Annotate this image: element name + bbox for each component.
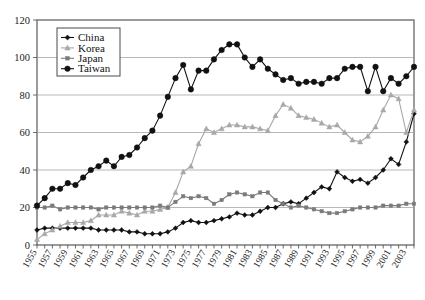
x-tick-label: 1959 [51, 248, 69, 270]
data-point-marker [66, 206, 69, 209]
data-point-marker [396, 81, 402, 87]
data-point-marker [74, 206, 77, 209]
line-chart-figure: 020406080100120 195519571959196119631965… [0, 0, 425, 300]
data-point-marker [211, 57, 217, 63]
data-point-marker [350, 64, 356, 70]
y-tick-label: 120 [14, 15, 30, 26]
data-point-marker [334, 75, 340, 81]
data-point-marker [288, 75, 294, 81]
x-tick-label: 1955 [21, 248, 39, 270]
data-point-marker [257, 57, 263, 63]
data-point-marker [228, 193, 231, 196]
data-point-marker [204, 68, 210, 74]
y-axis-tick-labels-group: 020406080100120 [14, 15, 30, 251]
data-point-marker [58, 208, 61, 211]
data-point-marker [189, 196, 192, 199]
legend-marker-square-icon [66, 57, 70, 61]
data-point-marker [404, 73, 410, 79]
data-point-marker [134, 145, 140, 151]
chart-legend: ChinaKoreaJapanTaiwan [57, 28, 120, 76]
data-point-marker [311, 79, 317, 85]
data-point-marker [166, 206, 169, 209]
data-point-marker [389, 204, 392, 207]
data-point-marker [320, 210, 323, 213]
legend-marker-circle-icon [65, 66, 71, 72]
x-tick-label: 1999 [359, 248, 377, 270]
data-point-marker [65, 180, 71, 186]
data-point-marker [397, 204, 400, 207]
data-point-marker [150, 128, 156, 134]
x-tick-label: 1963 [82, 248, 100, 270]
data-point-marker [266, 191, 269, 194]
x-tick-label: 1997 [344, 248, 362, 270]
data-point-marker [180, 62, 186, 68]
data-point-marker [235, 191, 238, 194]
data-point-marker [165, 94, 171, 100]
data-point-marker [282, 202, 285, 205]
data-point-marker [351, 208, 354, 211]
x-tick-label: 1969 [128, 248, 146, 270]
x-tick-label: 1975 [174, 248, 192, 270]
data-point-marker [97, 208, 100, 211]
x-tick-label: 1961 [67, 248, 85, 270]
data-point-marker [342, 66, 348, 72]
data-point-marker [80, 175, 86, 181]
data-point-marker [305, 206, 308, 209]
data-point-marker [243, 193, 246, 196]
data-point-marker [297, 204, 300, 207]
y-axis-ticks-group [33, 20, 37, 245]
data-point-marker [412, 202, 415, 205]
data-point-marker [280, 77, 286, 83]
data-point-marker [182, 195, 185, 198]
data-point-marker [227, 42, 233, 48]
data-point-marker [151, 206, 154, 209]
data-point-marker [319, 81, 325, 87]
data-point-marker [51, 204, 54, 207]
x-tick-label: 2001 [374, 248, 392, 270]
x-axis-tick-labels-group: 1955195719591961196319651967196919711973… [21, 248, 409, 270]
data-point-marker [103, 158, 109, 164]
data-point-marker [173, 75, 179, 81]
data-point-marker [196, 68, 202, 74]
data-point-marker [142, 135, 148, 141]
legend-label: Taiwan [78, 62, 111, 74]
data-point-marker [220, 198, 223, 201]
data-point-marker [119, 154, 125, 160]
data-point-marker [81, 206, 84, 209]
x-tick-label: 1965 [98, 248, 116, 270]
data-point-marker [242, 55, 248, 61]
y-tick-label: 80 [20, 90, 31, 101]
data-point-marker [34, 203, 40, 209]
x-tick-label: 1979 [205, 248, 223, 270]
data-point-marker [405, 202, 408, 205]
data-point-marker [120, 206, 123, 209]
data-point-marker [304, 79, 310, 85]
data-point-marker [366, 206, 369, 209]
y-tick-label: 40 [20, 165, 31, 176]
data-point-marker [273, 72, 279, 78]
data-point-marker [357, 64, 363, 70]
y-tick-label: 100 [14, 52, 30, 63]
x-tick-label: 1993 [313, 248, 331, 270]
x-tick-label: 1971 [144, 248, 162, 270]
data-point-marker [380, 88, 386, 94]
data-point-marker [188, 87, 194, 93]
data-point-marker [73, 182, 79, 188]
data-point-marker [143, 206, 146, 209]
data-point-marker [250, 64, 256, 70]
data-point-marker [335, 211, 338, 214]
data-point-marker [219, 47, 225, 53]
data-point-marker [135, 206, 138, 209]
chart-canvas: 020406080100120 195519571959196119631965… [0, 0, 425, 300]
data-point-marker [289, 206, 292, 209]
x-tick-label: 1977 [190, 248, 208, 270]
data-point-marker [42, 195, 48, 201]
data-point-marker [212, 202, 215, 205]
data-point-marker [296, 81, 302, 87]
data-point-marker [50, 186, 56, 192]
data-point-marker [105, 206, 108, 209]
data-point-marker [258, 191, 261, 194]
y-tick-label: 60 [20, 127, 31, 138]
x-tick-label: 1991 [298, 248, 316, 270]
data-point-marker [312, 208, 315, 211]
